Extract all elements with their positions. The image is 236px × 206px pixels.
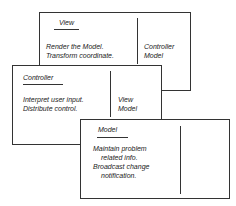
view-responsibility: Render the Model. [46,42,114,51]
view-card-title: View [59,19,74,27]
model-card: Model Maintain problem related info. Bro… [80,119,230,199]
model-responsibilities: Maintain problem related info. Broadcast… [93,144,149,180]
view-collaborator: Model [144,51,174,60]
controller-card-title: Controller [23,74,53,82]
model-responsibility: Maintain problem [93,144,149,153]
view-responsibilities: Render the Model. Transform coordinate. [46,42,114,60]
model-responsibility: notification. [93,171,149,180]
model-card-divider [180,126,181,194]
model-responsibility: related info. [93,153,149,162]
controller-title-underline [23,84,63,85]
view-collaborators: Controller Model [144,42,174,60]
controller-responsibilities: Interpret user input. Distribute control… [23,95,84,113]
controller-collaborator: View [118,95,137,104]
controller-collaborator: Model [118,104,137,113]
model-card-title: Model [98,126,117,134]
controller-responsibility: Interpret user input. [23,95,84,104]
controller-card-divider [110,71,111,117]
controller-collaborators: View Model [118,95,137,113]
controller-responsibility: Distribute control. [23,104,84,113]
view-collaborator: Controller [144,42,174,51]
view-title-underline [54,29,79,30]
view-card-divider [137,18,138,64]
model-responsibility: Broadcast change [93,162,149,171]
view-responsibility: Transform coordinate. [46,51,114,60]
model-title-underline [97,137,128,138]
